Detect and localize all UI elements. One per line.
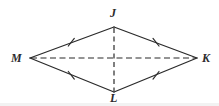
vertex-label-K: K [202, 52, 210, 64]
side-ML [30, 58, 114, 92]
rhombus-diagonals [31, 28, 196, 91]
vertex-label-M: M [11, 52, 22, 64]
side-MJ [30, 27, 114, 58]
bottom-edge-tint [0, 103, 219, 106]
geometry-figure-rhombus: J K L M [0, 0, 219, 106]
vertex-label-J: J [110, 7, 116, 19]
